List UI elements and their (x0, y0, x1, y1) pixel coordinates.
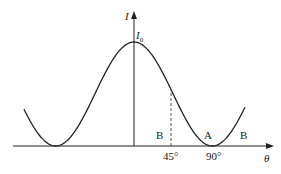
peak-label: I0 (136, 30, 143, 44)
y-axis-label: I (125, 11, 129, 22)
region-label-b-right: B (240, 130, 247, 141)
tick-label-90: 90° (206, 151, 221, 162)
y-axis-arrow-icon (131, 11, 137, 19)
region-label-a: A (204, 130, 212, 141)
x-axis-arrow-icon (266, 143, 274, 149)
tick-label-45: 45° (163, 151, 178, 162)
x-axis-label: θ (264, 153, 269, 164)
region-label-b-left: B (156, 130, 163, 141)
diagram-canvas: I I0 θ 45° 90° B A B (0, 0, 281, 174)
intensity-curve-plot (0, 0, 281, 174)
